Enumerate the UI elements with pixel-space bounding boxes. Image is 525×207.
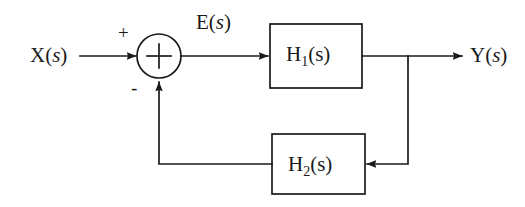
sign-plus-input: + <box>118 23 129 42</box>
signal-label-output: Y(s) <box>470 45 507 66</box>
signal-label-input: X(s) <box>30 45 67 66</box>
signal-input-arg: s <box>52 43 60 67</box>
connector-h2-to-sum <box>159 82 272 164</box>
block-h1-base: H <box>286 42 301 66</box>
signal-output-arg: s <box>492 43 500 67</box>
block-h2-base: H <box>288 152 303 176</box>
block-h1-arg: (s) <box>308 42 330 66</box>
block-h2-arg: (s) <box>310 152 332 176</box>
signal-input-base: X <box>30 43 45 67</box>
sign-minus-feedback: - <box>131 78 137 97</box>
diagram-canvas <box>0 0 525 207</box>
signal-label-error: E(s) <box>196 12 231 33</box>
block-label-h1: H1(s) <box>286 44 330 65</box>
signal-error-arg: s <box>216 10 224 34</box>
connector-output-tap-to-h2 <box>367 56 408 164</box>
block-label-h2: H2(s) <box>288 154 332 175</box>
signal-error-base: E <box>196 10 209 34</box>
signal-output-base: Y <box>470 43 485 67</box>
block-diagram: X(s) E(s) Y(s) H1(s) H2(s) + - <box>0 0 525 207</box>
